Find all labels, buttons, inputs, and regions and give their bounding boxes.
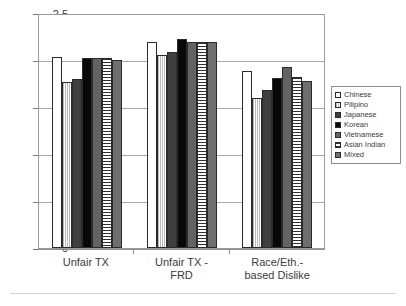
bar — [282, 67, 292, 248]
x-tick-mark — [229, 249, 230, 254]
bar-groups — [39, 15, 324, 248]
x-axis-label-line: FRD — [134, 269, 230, 282]
bar — [292, 77, 302, 248]
x-axis-label-line: Unfair TX - — [134, 256, 230, 269]
bar-group — [39, 15, 134, 248]
legend-item[interactable]: Asian Indian — [335, 140, 397, 150]
x-axis-labels: Unfair TXUnfair TX -FRDRace/Eth.-based D… — [38, 256, 325, 282]
legend-item[interactable]: Mixed — [335, 150, 397, 160]
bar — [302, 81, 312, 248]
x-axis-label-line: Unfair TX — [38, 256, 134, 269]
bar — [207, 42, 217, 248]
legend-item[interactable]: Pilipino — [335, 100, 397, 110]
plot-area — [38, 14, 325, 249]
legend-label: Mixed — [344, 151, 364, 159]
legend-label: Asian Indian — [344, 141, 385, 149]
bar-group — [229, 15, 324, 248]
bar — [52, 57, 62, 248]
x-axis-label: Race/Eth.-based Dislike — [229, 256, 325, 282]
legend-swatch-icon — [335, 122, 341, 128]
x-axis-label: Unfair TX -FRD — [134, 256, 230, 282]
bar — [147, 42, 157, 248]
legend-label: Vietnamese — [344, 131, 383, 139]
legend-item[interactable]: Korean — [335, 120, 397, 130]
legend-swatch-icon — [335, 152, 341, 158]
footer-divider — [10, 293, 396, 294]
legend-label: Chinese — [344, 91, 372, 99]
legend-label: Pilipino — [344, 101, 368, 109]
bar — [62, 82, 72, 248]
legend-item[interactable]: Japanese — [335, 110, 397, 120]
legend-swatch-icon — [335, 142, 341, 148]
bar — [177, 39, 187, 248]
bar — [197, 42, 207, 248]
legend-item[interactable]: Chinese — [335, 90, 397, 100]
bar — [262, 90, 272, 248]
bar — [242, 71, 252, 248]
bar — [252, 98, 262, 248]
x-tick-mark — [133, 249, 134, 254]
x-axis-line — [38, 249, 325, 250]
legend-label: Korean — [344, 121, 368, 129]
bar — [187, 42, 197, 248]
bar — [272, 78, 282, 248]
legend-label: Japanese — [344, 111, 377, 119]
x-axis-label-line: Race/Eth.- — [229, 256, 325, 269]
legend-swatch-icon — [335, 102, 341, 108]
legend-item[interactable]: Vietnamese — [335, 130, 397, 140]
legend-swatch-icon — [335, 132, 341, 138]
x-axis-label-line: based Dislike — [229, 269, 325, 282]
legend-swatch-icon — [335, 92, 341, 98]
legend: ChinesePilipinoJapaneseKoreanVietnameseA… — [331, 86, 401, 164]
bar — [82, 58, 92, 248]
bar — [92, 58, 102, 248]
bar — [167, 52, 177, 248]
bar — [72, 79, 82, 248]
bar — [112, 60, 122, 248]
legend-swatch-icon — [335, 112, 341, 118]
bar — [157, 55, 167, 248]
bar — [102, 58, 112, 248]
bar-chart: 2.5 2 1.5 1 0.5 0 Unfair TXUnfair TX -FR… — [0, 0, 406, 306]
bar-group — [134, 15, 229, 248]
x-axis-label: Unfair TX — [38, 256, 134, 282]
